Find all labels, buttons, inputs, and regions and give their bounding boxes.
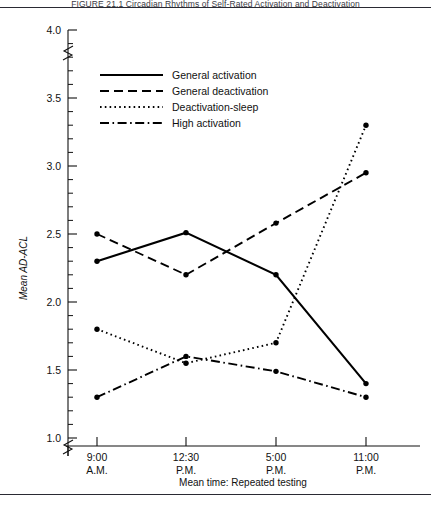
chart-legend: General activationGeneral deactivationDe… [100, 69, 268, 129]
data-point [94, 395, 99, 400]
y-axis-tick-label: 1.5 [46, 364, 61, 376]
x-axis-title: Mean time: Repeated testing [179, 477, 307, 488]
x-axis-tick-label-time: 11:00 [353, 451, 379, 463]
x-axis-tick-label-time: 12:30 [173, 451, 199, 463]
data-point [183, 354, 188, 359]
y-axis-tick-label: 1.0 [46, 432, 61, 444]
series-line-high-activation [97, 356, 366, 397]
legend-label: General activation [172, 69, 257, 81]
series-line-general-activation [97, 233, 366, 384]
data-point [94, 231, 99, 236]
data-point [94, 259, 99, 264]
data-point [363, 123, 368, 128]
data-point [183, 230, 188, 235]
figure-container: FIGURE 21.1 Circadian Rhythms of Self-Ra… [0, 0, 431, 506]
x-axis-tick-label-time: 5:00 [266, 451, 287, 463]
legend-label: Deactivation-sleep [172, 101, 259, 113]
x-axis-tick-label-meridiem: P.M. [266, 464, 286, 476]
data-point [273, 220, 278, 225]
y-axis-tick-label: 3.5 [46, 92, 61, 104]
x-axis-tick-label-time: 9:00 [87, 451, 108, 463]
data-point [183, 361, 188, 366]
y-axis-tick-label: 2.5 [46, 228, 61, 240]
series-line-general-deactivation [97, 173, 366, 275]
data-point [94, 327, 99, 332]
figure-bottom-rule [0, 494, 431, 495]
data-point [273, 272, 278, 277]
data-point [363, 395, 368, 400]
y-axis-tick-label: 2.0 [46, 296, 61, 308]
y-axis-tick-label: 4.0 [46, 24, 61, 36]
legend-label: General deactivation [172, 85, 268, 97]
data-point [273, 340, 278, 345]
x-axis-tick-label-meridiem: P.M. [356, 464, 376, 476]
data-point [363, 381, 368, 386]
y-axis-title: Mean AD-ACL [18, 236, 29, 300]
figure-caption: FIGURE 21.1 Circadian Rhythms of Self-Ra… [0, 0, 431, 7]
data-point [363, 170, 368, 175]
series-line-deactivation-sleep [97, 125, 366, 363]
data-point [273, 369, 278, 374]
x-axis-tick-label-meridiem: A.M. [86, 464, 108, 476]
legend-label: High activation [172, 117, 241, 129]
line-chart: 1.01.52.02.53.03.54.09:00A.M.12:30P.M.5:… [0, 8, 431, 494]
y-axis-tick-label: 3.0 [46, 160, 61, 172]
x-axis-tick-label-meridiem: P.M. [176, 464, 196, 476]
series-group [94, 123, 368, 400]
data-point [183, 272, 188, 277]
